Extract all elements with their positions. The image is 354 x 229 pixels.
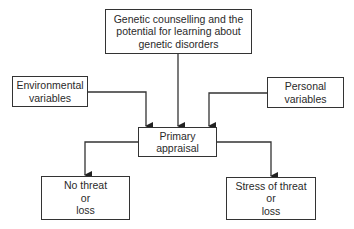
node-text-line: or	[81, 192, 90, 205]
arrow-primary-to-stress	[217, 142, 271, 176]
node-genetic-counselling: Genetic counselling and the potential fo…	[105, 9, 252, 54]
node-text-line: appraisal	[156, 142, 199, 155]
node-text-line: Personal	[285, 80, 326, 93]
node-stress-of-threat-or-loss: Stress of threat or loss	[226, 177, 316, 220]
node-text-line: Stress of threat	[235, 180, 306, 193]
node-text-line: loss	[76, 204, 95, 217]
arrow-personal-to-primary	[209, 93, 267, 126]
node-text-line: loss	[262, 205, 281, 218]
arrow-environmental-to-primary	[88, 92, 146, 126]
node-text-line: potential for learning about	[116, 25, 240, 38]
node-text-line: or	[266, 192, 275, 205]
node-text-line: variables	[29, 92, 71, 105]
node-primary-appraisal: Primary appraisal	[138, 127, 217, 157]
node-personal-variables: Personal variables	[267, 77, 344, 108]
arrow-primary-to-no-threat	[85, 142, 138, 175]
node-text-line: No threat	[64, 179, 107, 192]
node-text-line: Environmental	[16, 79, 83, 92]
node-text-line: Genetic counselling and the	[114, 13, 244, 26]
node-no-threat-or-loss: No threat or loss	[41, 176, 130, 220]
node-environmental-variables: Environmental variables	[12, 76, 88, 107]
node-text-line: variables	[284, 93, 326, 106]
node-text-line: genetic disorders	[139, 38, 219, 51]
node-text-line: Primary	[159, 130, 195, 143]
